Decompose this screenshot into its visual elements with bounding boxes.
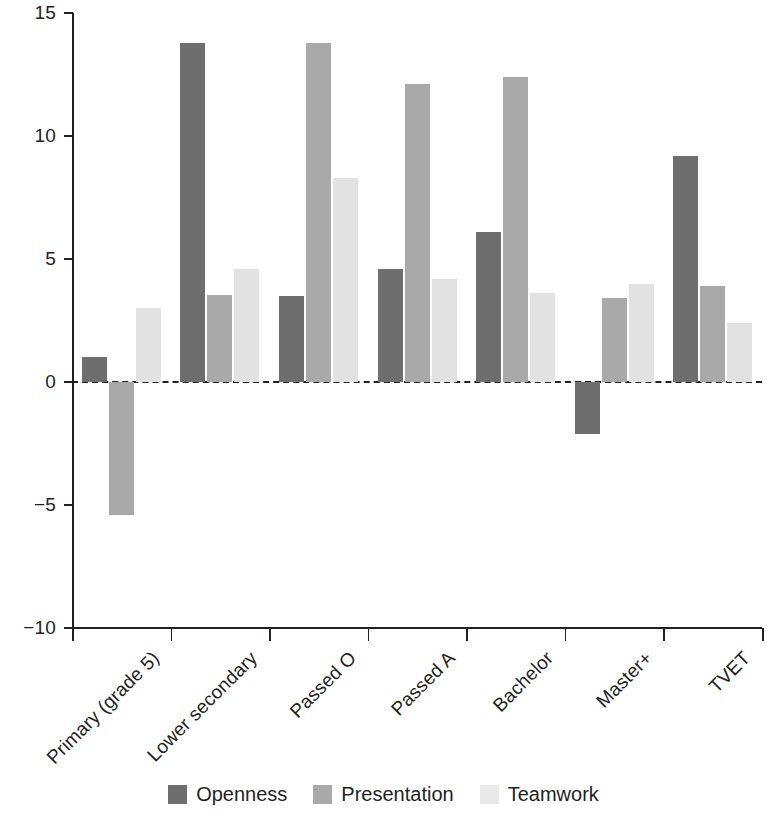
bars-layer	[72, 13, 762, 628]
bar-openness-0	[82, 357, 107, 382]
bar-presentation-5	[602, 298, 627, 382]
x-axis-separator	[762, 628, 764, 641]
legend-item-teamwork[interactable]: Teamwork	[480, 784, 599, 804]
bar-presentation-1	[207, 295, 232, 382]
x-axis-separator	[663, 628, 665, 641]
bar-teamwork-3	[432, 279, 457, 382]
x-axis-separator	[466, 628, 468, 641]
bar-openness-2	[279, 296, 304, 382]
bar-teamwork-0	[136, 308, 161, 382]
chart-legend: OpennessPresentationTeamwork	[0, 784, 767, 804]
bar-teamwork-5	[629, 284, 654, 382]
bar-presentation-3	[405, 84, 430, 382]
x-axis-separator	[565, 628, 567, 641]
x-axis-separator	[72, 628, 74, 641]
bar-teamwork-4	[530, 293, 555, 382]
bar-presentation-0	[109, 382, 134, 515]
bar-teamwork-2	[333, 178, 358, 382]
bar-presentation-2	[306, 43, 331, 382]
bar-openness-1	[180, 43, 205, 382]
bar-openness-3	[378, 269, 403, 382]
bar-presentation-4	[503, 77, 528, 382]
y-axis-tick-label: 0	[0, 372, 56, 391]
legend-label-teamwork: Teamwork	[508, 784, 599, 804]
bar-teamwork-1	[234, 269, 259, 382]
bar-openness-4	[476, 232, 501, 382]
legend-item-openness[interactable]: Openness	[168, 784, 287, 804]
y-axis-tick-label: 15	[0, 3, 56, 22]
y-axis-tick-label: −5	[0, 495, 56, 514]
legend-label-openness: Openness	[196, 784, 287, 804]
y-axis-tick-label: 10	[0, 126, 56, 145]
bar-chart: 151050−5−10 Primary (grade 5)Lower secon…	[0, 0, 767, 823]
x-axis-separator	[171, 628, 173, 641]
legend-swatch-openness-icon	[168, 785, 187, 804]
legend-swatch-teamwork-icon	[480, 785, 499, 804]
x-axis-separator	[368, 628, 370, 641]
bar-teamwork-6	[727, 323, 752, 382]
legend-item-presentation[interactable]: Presentation	[313, 784, 453, 804]
x-axis-separator	[269, 628, 271, 641]
bar-presentation-6	[700, 286, 725, 382]
legend-swatch-presentation-icon	[313, 785, 332, 804]
y-axis-tick-label: −10	[0, 618, 56, 637]
legend-label-presentation: Presentation	[341, 784, 453, 804]
bar-openness-6	[673, 156, 698, 382]
bar-openness-5	[575, 382, 600, 434]
y-axis-tick-label: 5	[0, 249, 56, 268]
